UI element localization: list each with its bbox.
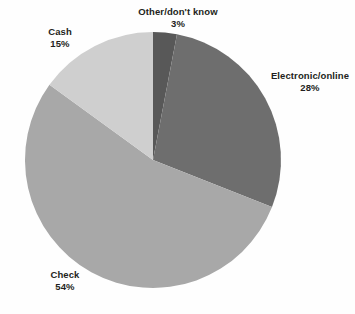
slice-label-electronic-value: 28%: [265, 82, 355, 94]
slice-label-cash-name: Cash: [27, 26, 93, 38]
slice-label-check-value: 54%: [32, 281, 98, 293]
slice-label-other-value: 3%: [113, 18, 243, 30]
slice-label-cash: Cash 15%: [27, 26, 93, 50]
slice-label-check-name: Check: [32, 269, 98, 281]
slice-label-cash-value: 15%: [27, 38, 93, 50]
pie-chart: Other/don't know 3% Electronic/online 28…: [0, 0, 355, 314]
pie-slice-group: [25, 32, 281, 288]
slice-label-check: Check 54%: [32, 269, 98, 293]
slice-label-electronic: Electronic/online 28%: [265, 70, 355, 94]
slice-label-electronic-name: Electronic/online: [265, 70, 355, 82]
slice-label-other-name: Other/don't know: [113, 6, 243, 18]
slice-label-other: Other/don't know 3%: [113, 6, 243, 30]
